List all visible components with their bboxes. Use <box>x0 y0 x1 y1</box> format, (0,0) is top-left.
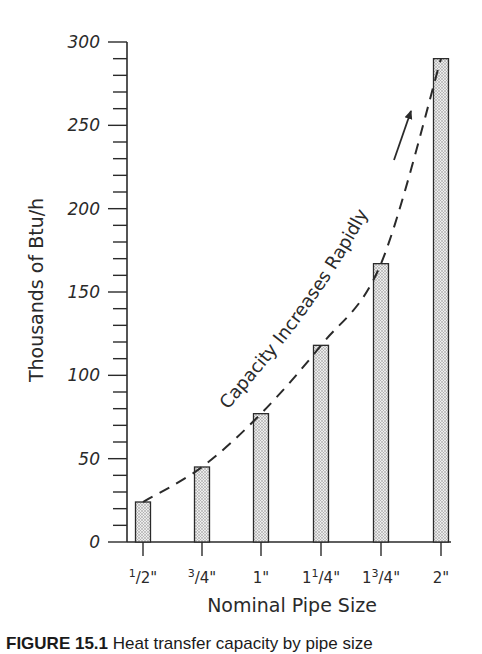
x-axis-title: Nominal Pipe Size <box>207 594 377 616</box>
y-axis: 050100150200250300 <box>68 32 127 552</box>
y-tick-label: 200 <box>68 199 100 219</box>
y-axis-title: Thousands of Btu/h <box>25 198 47 383</box>
trend-dashed-curve <box>143 59 441 502</box>
x-tick-label: 11/4" <box>302 567 340 587</box>
y-tick-label: 250 <box>68 115 100 135</box>
arrow-icon <box>394 111 411 160</box>
bar <box>314 345 329 542</box>
bar <box>195 467 210 542</box>
figure-caption: FIGURE 15.1 Heat transfer capacity by pi… <box>6 634 373 654</box>
bar <box>374 264 389 542</box>
y-tick-label: 150 <box>68 282 100 302</box>
x-tick-label: 1" <box>253 569 269 587</box>
y-tick-label: 0 <box>89 532 100 552</box>
y-tick-label: 300 <box>68 32 100 52</box>
figure-label: FIGURE 15.1 <box>6 634 108 653</box>
bars <box>136 59 449 542</box>
x-tick-label: 2" <box>433 569 449 587</box>
bar <box>434 59 449 542</box>
y-tick-label: 50 <box>78 449 100 469</box>
x-tick-label: 1/2" <box>129 567 158 587</box>
figure-caption-text: Heat transfer capacity by pipe size <box>113 634 373 653</box>
bar <box>136 502 151 542</box>
x-tick-label: 3/4" <box>188 567 217 587</box>
bar <box>254 414 269 542</box>
x-tick-label: 13/4" <box>362 567 400 587</box>
x-axis: 1/2"3/4"1"11/4"13/4"2" <box>127 542 451 587</box>
y-tick-label: 100 <box>68 365 100 385</box>
capacity-annotation: Capacity Increases Rapidly <box>215 205 372 413</box>
